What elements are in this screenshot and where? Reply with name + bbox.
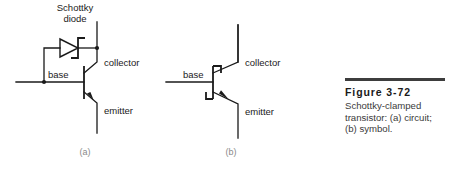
schottky-diode-label-line2: diode: [63, 13, 86, 24]
base-label-b: base: [183, 69, 204, 80]
sub-label-a: (a): [80, 147, 91, 157]
figure-3-72: Schottky diode: [0, 0, 451, 173]
schottky-diode-label-line1: Schottky: [57, 2, 94, 13]
schottky-hook-bottom-b: [206, 92, 213, 99]
figure-number-label: Figure 3-72: [345, 86, 448, 99]
caption-line-1: Schottky-clamped: [345, 100, 448, 112]
caption-rule: [345, 78, 445, 81]
caption-line-2: transistor: (a) circuit;: [345, 112, 448, 124]
emitter-label-b: emitter: [245, 106, 274, 117]
caption-line-3: (b) symbol.: [345, 123, 448, 135]
diode-anode-triangle-a: [60, 39, 78, 57]
collector-label-b: collector: [245, 57, 280, 68]
circuit-diagrams: Schottky diode: [0, 0, 310, 173]
transistor-emitter-lead-a: [84, 92, 97, 133]
sub-label-b: (b): [226, 147, 237, 157]
circuit-a-group: Schottky diode: [16, 2, 139, 157]
symbol-b-group: collector base emitter (b): [166, 25, 280, 157]
diagram-svg: Schottky diode: [0, 0, 310, 173]
emitter-label-a: emitter: [104, 105, 133, 116]
collector-label-a: collector: [104, 57, 139, 68]
base-label-a: base: [48, 69, 69, 80]
base-node-dot-a: [42, 80, 46, 84]
transistor-collector-lead-a: [84, 48, 97, 73]
transistor-emitter-lead-b: [213, 92, 238, 138]
figure-caption: Figure 3-72 Schottky-clamped transistor:…: [345, 78, 448, 135]
